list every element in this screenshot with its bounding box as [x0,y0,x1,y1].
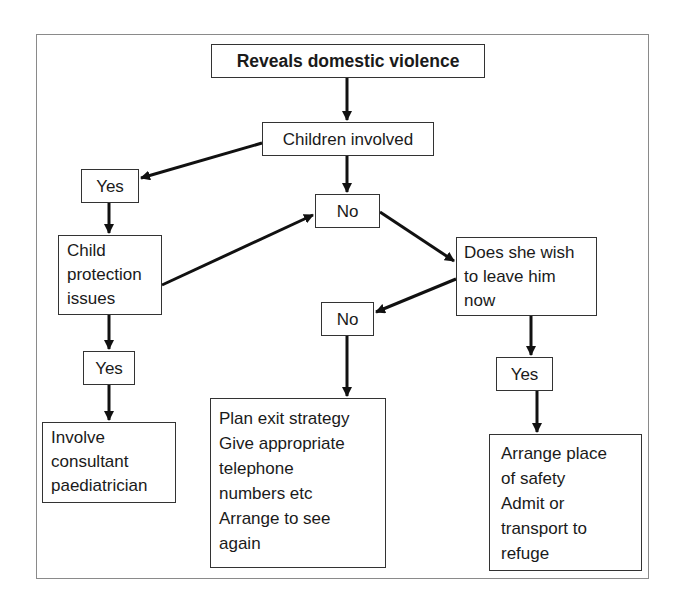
node-involve-consultant-paediatrician: Involve consultant paediatrician [42,422,176,503]
node-no-leave: No [321,302,374,336]
node-yes-children: Yes [81,169,139,203]
node-yes-leave: Yes [496,357,553,391]
node-children-involved: Children involved [262,122,434,156]
node-child-protection-issues: Child protection issues [58,235,162,315]
node-does-she-wish-to-leave: Does she wish to leave him now [456,237,597,316]
node-yes-protection: Yes [83,351,135,385]
node-arrange-place-of-safety: Arrange place of safety Admit or transpo… [489,434,642,571]
node-plan-exit-strategy: Plan exit strategy Give appropriate tele… [210,398,386,568]
node-no-children: No [315,194,380,228]
node-reveals-domestic-violence: Reveals domestic violence [211,44,485,78]
